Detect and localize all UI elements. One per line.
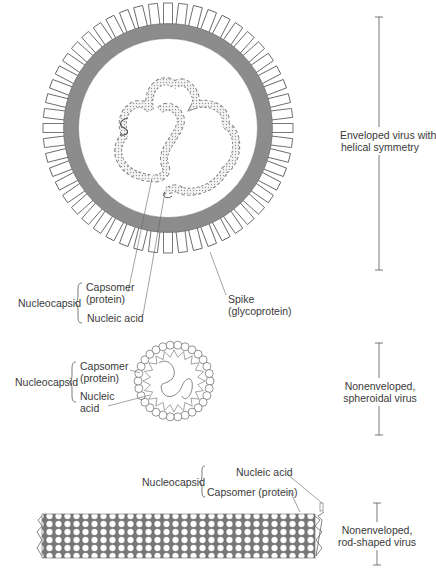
scale-label-spheroidal: Nonenveloped, spheroidal virus xyxy=(342,378,418,406)
capsomer-label-3: Capsomer (protein) xyxy=(207,486,297,498)
nucleic-acid-label-3: Nucleic acid xyxy=(236,466,293,478)
nucleic-acid-label-2: Nucleic acid xyxy=(80,390,114,414)
nucleocapsid-label-1: Nucleocapsid xyxy=(18,297,81,309)
nucleic-acid-label-1: Nucleic acid xyxy=(87,312,144,324)
rod-virus xyxy=(37,503,324,558)
capsomer-label-2: Capsomer (protein) xyxy=(80,360,128,384)
capsomer-label-1: Capsomer (protein) xyxy=(86,281,134,305)
scale-label-rod: Nonenveloped, rod-shaped virus xyxy=(335,522,419,550)
scale-label-enveloped: Enveloped virus with helical symmetry xyxy=(340,127,420,155)
nucleocapsid-label-3: Nucleocapsid xyxy=(142,476,205,488)
spike-label: Spike (glycoprotein) xyxy=(228,293,292,317)
nucleocapsid-label-2: Nucleocapsid xyxy=(15,376,78,388)
spheroidal-virus xyxy=(134,341,214,421)
